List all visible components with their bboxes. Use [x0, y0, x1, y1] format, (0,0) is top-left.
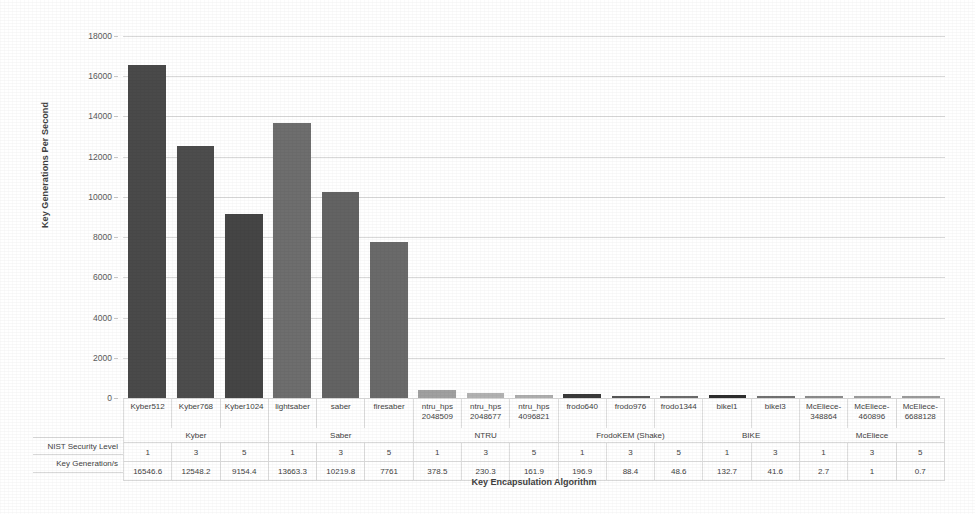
y-tick-label: 2000 [93, 353, 112, 363]
category-label-cell: bikel1 [703, 399, 751, 428]
group-label-cell: FrodoKEM (Shake) [558, 428, 703, 443]
y-tick-label: 12000 [88, 152, 112, 162]
nist-security-level-cell: 1 [413, 443, 461, 462]
bar [660, 396, 698, 398]
category-label-line2: 4096821 [511, 412, 556, 422]
nist-security-level-cell: 1 [124, 443, 172, 462]
bar [467, 393, 505, 398]
nist-security-level-row: 13513513513513135 [124, 443, 945, 462]
category-label-line1: ntru_hps [511, 402, 556, 412]
bar [177, 146, 215, 398]
row-header-nist-security-level: NIST Security Level [33, 437, 123, 455]
nist-security-level-cell: 1 [703, 443, 751, 462]
bar-series [123, 36, 945, 398]
y-tick-mark [114, 237, 118, 238]
category-table: Kyber512Kyber768Kyber1024lightsabersaber… [123, 399, 945, 481]
group-label-cell: Kyber [124, 428, 269, 443]
y-tick-label: 16000 [88, 71, 112, 81]
bar [515, 395, 553, 398]
nist-security-level-cell: 5 [365, 443, 413, 462]
y-tick-label: 6000 [93, 272, 112, 282]
y-tick-mark [114, 116, 118, 117]
y-tick-mark [114, 36, 118, 37]
bar [709, 395, 747, 398]
nist-security-level-cell: 5 [220, 443, 268, 462]
nist-security-level-cell: 3 [461, 443, 509, 462]
y-tick-label: 8000 [93, 232, 112, 242]
category-label-line2: 2048509 [415, 412, 460, 422]
category-label-line1: McEliece- [849, 402, 894, 412]
bar [322, 192, 360, 398]
group-label-cell: NTRU [413, 428, 558, 443]
category-label-cell: frodo976 [606, 399, 654, 428]
nist-security-level-cell: 1 [799, 443, 847, 462]
nist-security-level-cell: 1 [268, 443, 316, 462]
category-label-cell: McEliece-460896 [848, 399, 896, 428]
category-label-line2: 2048677 [463, 412, 508, 422]
category-label-cell: Kyber768 [172, 399, 220, 428]
bar [902, 396, 940, 398]
y-tick-label: 18000 [88, 31, 112, 41]
category-label-line2: 348864 [801, 412, 846, 422]
category-label-cell: firesaber [365, 399, 413, 428]
category-label-cell: ntru_hps4096821 [510, 399, 558, 428]
category-label-cell: Kyber512 [124, 399, 172, 428]
category-label-cell: ntru_hps2048677 [461, 399, 509, 428]
y-tick-mark [114, 76, 118, 77]
bar [128, 65, 166, 398]
y-tick-mark [114, 398, 118, 399]
bar [612, 396, 650, 398]
category-label-line1: firesaber [366, 402, 411, 412]
category-label-line1: ntru_hps [463, 402, 508, 412]
category-label-line1: McEliece- [898, 402, 944, 412]
bar [805, 396, 843, 398]
y-axis-ticks: 0200040006000800010000120001400016000180… [60, 36, 118, 398]
category-label-line1: frodo640 [560, 402, 605, 412]
bar [563, 394, 601, 398]
y-tick-label: 4000 [93, 313, 112, 323]
category-label-cell: frodo640 [558, 399, 606, 428]
nist-security-level-cell: 3 [848, 443, 896, 462]
category-label-line2: 6688128 [898, 412, 944, 422]
category-label-line1: Kyber1024 [222, 402, 267, 412]
nist-security-level-cell: 3 [751, 443, 799, 462]
nist-security-level-cell: 3 [172, 443, 220, 462]
category-label-line1: Kyber768 [173, 402, 218, 412]
bar [757, 396, 795, 398]
y-axis-title: Key Generations Per Second [40, 25, 50, 305]
bar [418, 390, 456, 398]
group-label-cell: McEliece [799, 428, 944, 443]
table-row-headers: NIST Security Level Key Generation/s [33, 437, 123, 473]
bar [225, 214, 263, 398]
category-label-line1: frodo1344 [656, 402, 701, 412]
category-label-line1: bikel3 [753, 402, 798, 412]
nist-security-level-cell: 3 [317, 443, 365, 462]
category-label-line1: ntru_hps [415, 402, 460, 412]
category-label-cell: saber [317, 399, 365, 428]
category-label-cell: lightsaber [268, 399, 316, 428]
group-label-cell: BIKE [703, 428, 800, 443]
y-tick-mark [114, 157, 118, 158]
y-tick-mark [114, 277, 118, 278]
y-tick-label: 10000 [88, 192, 112, 202]
x-axis-title: Key Encapsulation Algorithm [123, 477, 945, 487]
category-label-line1: McEliece- [801, 402, 846, 412]
y-tick-label: 14000 [88, 111, 112, 121]
y-tick-label: 0 [107, 393, 112, 403]
category-label-line1: frodo976 [608, 402, 653, 412]
category-label-cell: McEliece-348864 [799, 399, 847, 428]
category-label-cell: frodo1344 [655, 399, 703, 428]
bar [370, 242, 408, 398]
row-header-key-generation-per-s: Key Generation/s [33, 455, 123, 473]
y-tick-mark [114, 318, 118, 319]
y-tick-mark [114, 197, 118, 198]
category-label-line2: 460896 [849, 412, 894, 422]
nist-security-level-cell: 1 [558, 443, 606, 462]
group-label-row: KyberSaberNTRUFrodoKEM (Shake)BIKEMcElie… [124, 428, 945, 443]
category-label-line1: saber [318, 402, 363, 412]
nist-security-level-cell: 5 [510, 443, 558, 462]
category-label-row: Kyber512Kyber768Kyber1024lightsabersaber… [124, 399, 945, 428]
category-label-cell: ntru_hps2048509 [413, 399, 461, 428]
y-tick-mark [114, 358, 118, 359]
category-label-line1: bikel1 [704, 402, 749, 412]
